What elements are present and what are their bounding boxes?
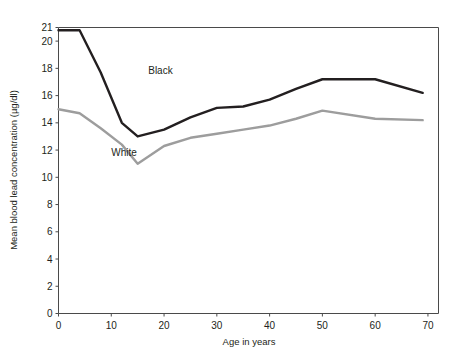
y-tick-label: 0 bbox=[47, 308, 53, 319]
y-tick-label: 18 bbox=[41, 63, 53, 74]
y-tick-label: 6 bbox=[47, 226, 53, 237]
x-tick-label: 40 bbox=[264, 320, 276, 331]
y-tick-label: 16 bbox=[41, 90, 53, 101]
y-tick-label: 21 bbox=[41, 22, 53, 33]
y-axis-title: Mean blood lead concentration (µg/dl) bbox=[8, 90, 19, 250]
x-tick-label: 10 bbox=[106, 320, 118, 331]
x-tick-label: 70 bbox=[422, 320, 434, 331]
series-label-white: White bbox=[111, 147, 137, 158]
line-chart: 0246810121416182021 010203040506070 Blac… bbox=[0, 0, 461, 362]
y-tick-label: 10 bbox=[41, 172, 53, 183]
y-tick-label: 20 bbox=[41, 36, 53, 47]
x-tick-label: 50 bbox=[317, 320, 329, 331]
x-axis-ticks: 010203040506070 bbox=[56, 314, 434, 331]
x-tick-label: 0 bbox=[56, 320, 62, 331]
plot-border bbox=[59, 28, 439, 314]
series-line-black bbox=[59, 30, 423, 136]
data-series-group bbox=[59, 30, 423, 163]
y-tick-label: 2 bbox=[47, 281, 53, 292]
y-tick-label: 4 bbox=[47, 254, 53, 265]
y-tick-label: 14 bbox=[41, 117, 53, 128]
x-axis-title: Age in years bbox=[223, 336, 276, 347]
y-tick-label: 8 bbox=[47, 199, 53, 210]
x-tick-label: 20 bbox=[158, 320, 170, 331]
x-tick-label: 30 bbox=[211, 320, 223, 331]
y-tick-label: 12 bbox=[41, 145, 53, 156]
x-tick-label: 60 bbox=[370, 320, 382, 331]
series-label-black: Black bbox=[148, 65, 173, 76]
chart-figure: 0246810121416182021 010203040506070 Blac… bbox=[0, 0, 461, 362]
y-axis-ticks: 0246810121416182021 bbox=[41, 22, 58, 319]
plot-frame bbox=[59, 28, 439, 314]
